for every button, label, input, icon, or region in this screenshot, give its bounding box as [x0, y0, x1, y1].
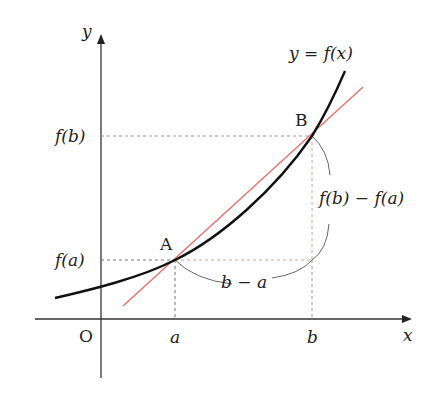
- brace-run-right: [272, 260, 312, 278]
- x-axis-label: x: [403, 325, 413, 345]
- tick-label-a: a: [170, 327, 180, 347]
- rise-label: f(b) − f(a): [317, 188, 404, 208]
- point-label-A: A: [159, 234, 173, 254]
- origin-label: O: [79, 326, 93, 346]
- diagram-canvas: y x O a b f(b) f(a) A B y = f(x) b − a f…: [0, 0, 438, 395]
- mean-value-diagram: y x O a b f(b) f(a) A B y = f(x) b − a f…: [0, 0, 438, 395]
- tick-label-fa: f(a): [53, 250, 85, 270]
- tick-label-b: b: [307, 327, 318, 347]
- curve-f: [55, 71, 345, 298]
- tick-label-fb: f(b): [53, 126, 85, 146]
- curve-label: y = f(x): [288, 43, 353, 63]
- brace-rise: [312, 136, 330, 175]
- point-label-B: B: [295, 110, 308, 130]
- run-label: b − a: [221, 272, 267, 292]
- brace-rise-lower: [312, 224, 329, 260]
- y-axis-label: y: [81, 21, 92, 41]
